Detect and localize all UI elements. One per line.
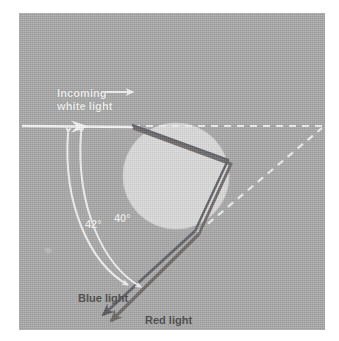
diagram-canvas xyxy=(19,13,325,330)
label-angle-40: 40° xyxy=(114,212,131,225)
label-blue-light: Blue light xyxy=(78,292,128,305)
label-red-light: Red light xyxy=(145,314,192,327)
ray-diagram-svg xyxy=(19,13,325,330)
raindrop-circle xyxy=(123,123,229,229)
red-ray-exit xyxy=(111,234,199,321)
scan-blemish xyxy=(44,247,52,253)
angle-arc-42 xyxy=(67,133,128,285)
label-incoming-white-light: Incoming white light xyxy=(57,87,112,112)
diagram-plate: Incoming white light 42° 40° Blue light … xyxy=(19,13,325,330)
rainbow-raindrop-diagram: Incoming white light 42° 40° Blue light … xyxy=(0,0,339,341)
label-angle-42: 42° xyxy=(85,218,102,231)
